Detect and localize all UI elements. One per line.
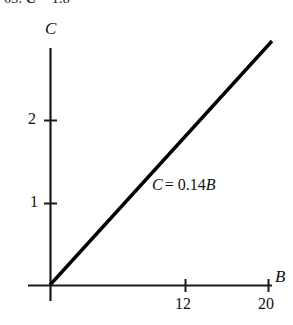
equation-annotation: C=0.14B bbox=[152, 177, 215, 193]
x-tick-label-20: 20 bbox=[258, 296, 274, 312]
y-tick-label-2: 2 bbox=[28, 111, 36, 127]
graph-canvas bbox=[0, 0, 293, 325]
x-tick-label-12: 12 bbox=[175, 296, 191, 312]
data-line-c-equals-0-14-b bbox=[50, 41, 272, 285]
equation-rhs-variable: B bbox=[206, 176, 216, 193]
equation-lhs: C bbox=[152, 176, 163, 193]
y-tick-label-1: 1 bbox=[30, 194, 38, 210]
equation-operator: = bbox=[165, 176, 174, 193]
figure-container: 63. C = 1.8 C B 2 1 12 20 bbox=[0, 0, 293, 325]
x-axis-label: B bbox=[275, 268, 285, 285]
y-axis-label: C bbox=[45, 20, 56, 37]
plot-area: C B 2 1 12 20 C=0.14B bbox=[0, 0, 293, 325]
equation-coefficient: 0.14 bbox=[178, 176, 206, 193]
